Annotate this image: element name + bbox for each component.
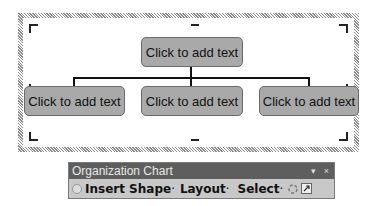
layout-button[interactable]: Layout· xyxy=(180,182,238,196)
org-node-middle[interactable]: Click to add text xyxy=(141,86,243,116)
node-label: Click to add text xyxy=(146,45,239,60)
toolbar-options-dropdown-icon[interactable]: ▾ xyxy=(311,163,316,179)
organization-chart-toolbar: Organization Chart ▾ × Insert Shape · La… xyxy=(68,162,335,199)
resize-handle-bottom-right[interactable] xyxy=(339,132,348,141)
resize-handle-bottom[interactable] xyxy=(191,139,199,141)
node-label: Click to add text xyxy=(146,94,239,109)
toolbar-close-icon[interactable]: × xyxy=(324,163,329,179)
autoformat-icon[interactable] xyxy=(287,183,299,195)
node-label: Click to add text xyxy=(28,94,121,109)
toolbar-title-bar[interactable]: Organization Chart ▾ × xyxy=(69,163,334,179)
resize-handle-top-right[interactable] xyxy=(339,24,348,33)
toolbar-title: Organization Chart xyxy=(72,164,173,178)
diagram-selection-frame[interactable]: Click to add text Click to add text Clic… xyxy=(18,13,359,152)
diagram-canvas: Click to add text Click to add text Clic… xyxy=(23,18,354,147)
resize-handle-bottom-left[interactable] xyxy=(29,132,38,141)
resize-handle-top-left[interactable] xyxy=(29,24,38,33)
select-button[interactable]: Select· xyxy=(238,182,288,196)
fit-text-icon[interactable] xyxy=(301,183,312,194)
resize-handle-top[interactable] xyxy=(191,24,199,26)
org-node-top[interactable]: Click to add text xyxy=(141,37,243,67)
org-node-right[interactable]: Click to add text xyxy=(259,86,359,116)
insert-shape-button[interactable]: Insert Shape · xyxy=(85,182,180,196)
insert-shape-icon[interactable] xyxy=(72,184,82,194)
node-label: Click to add text xyxy=(263,94,356,109)
org-node-left[interactable]: Click to add text xyxy=(24,86,125,116)
toolbar-buttons-row: Insert Shape · Layout· Select· xyxy=(69,179,334,198)
